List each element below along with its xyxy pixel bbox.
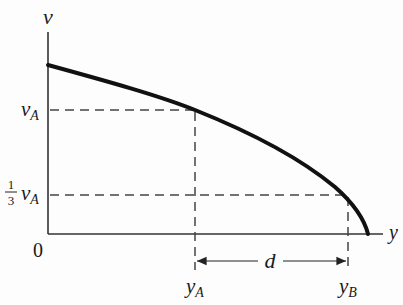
- third-fraction-numerator: 1: [8, 177, 15, 192]
- yB-label: yB: [337, 274, 357, 300]
- diagram-canvas: d v y 0 vA 1 3 vA yA yB: [0, 0, 403, 305]
- velocity-curve: [48, 65, 368, 234]
- third-fraction-denominator: 3: [8, 193, 15, 208]
- origin-label: 0: [33, 239, 43, 261]
- v-axis-label: v: [43, 4, 53, 29]
- y-axis-label: y: [387, 221, 398, 244]
- third-vA-label: vA: [21, 181, 39, 207]
- vA-label: vA: [21, 97, 39, 123]
- dimension-d-label: d: [265, 248, 277, 273]
- yA-label: yA: [184, 274, 204, 300]
- velocity-graph: d v y 0 vA 1 3 vA yA yB: [0, 0, 403, 305]
